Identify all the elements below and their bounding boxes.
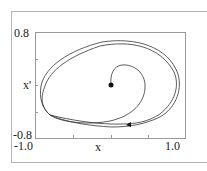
y-axis-label: x' [23, 79, 31, 91]
start-point-marker [109, 83, 114, 88]
y-tick-label-top: 0.8 [14, 27, 29, 39]
x-axis-label: x [95, 141, 101, 153]
x-tick-label-right: 1.0 [165, 140, 180, 152]
x-ticks [74, 135, 149, 138]
x-tick-label-left: -1.0 [14, 140, 33, 152]
